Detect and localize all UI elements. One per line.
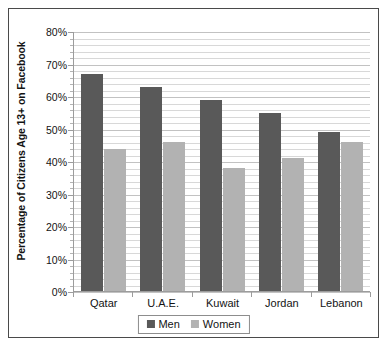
bar-women-jordan [282, 158, 304, 291]
bar-women-qatar [104, 149, 126, 291]
y-axis-tick-labels: 0%10%20%30%40%50%60%70%80% [31, 9, 69, 337]
bar-group [192, 32, 251, 291]
y-axis-tick-label: 20% [46, 221, 67, 233]
y-tick-mark-minor [70, 39, 73, 40]
y-tick-mark-major [68, 260, 73, 261]
y-tick-mark-major [68, 65, 73, 66]
y-tick-mark-major [68, 97, 73, 98]
y-tick-mark-minor [70, 214, 73, 215]
y-tick-mark-minor [70, 240, 73, 241]
bar-women-lebanon [341, 142, 363, 291]
gridline-major [74, 292, 370, 293]
bar-men-uae [140, 87, 162, 291]
y-tick-mark-minor [70, 286, 73, 287]
legend-item-women[interactable]: Women [191, 318, 241, 330]
y-axis-tick-label: 50% [46, 124, 67, 136]
y-tick-mark-minor [70, 175, 73, 176]
y-tick-mark-major [68, 227, 73, 228]
plot-inner [73, 32, 370, 292]
y-tick-mark-minor [70, 201, 73, 202]
bar-group [133, 32, 192, 291]
y-tick-mark-minor [70, 253, 73, 254]
y-axis-tick-label: 80% [46, 26, 67, 38]
x-axis-label-uae: U.A.E. [133, 297, 192, 309]
bar-women-uae [163, 142, 185, 291]
y-tick-mark-minor [70, 188, 73, 189]
bar-men-jordan [259, 113, 281, 291]
y-tick-mark-minor [70, 221, 73, 222]
bar-group [74, 32, 133, 291]
y-tick-mark-minor [70, 169, 73, 170]
y-tick-mark-minor [70, 71, 73, 72]
y-axis-title: Percentage of Citizens Age 13+ on Facebo… [15, 41, 27, 260]
y-tick-mark-major [68, 195, 73, 196]
y-tick-mark-minor [70, 149, 73, 150]
legend-label: Men [158, 318, 179, 330]
bar-women-kuwait [223, 168, 245, 291]
x-axis-label-qatar: Qatar [74, 297, 133, 309]
y-tick-mark-minor [70, 117, 73, 118]
plot-area [73, 32, 370, 292]
y-axis-tick-label: 70% [46, 59, 67, 71]
y-tick-mark-minor [70, 182, 73, 183]
x-axis-label-jordan: Jordan [252, 297, 311, 309]
y-tick-mark-minor [70, 45, 73, 46]
y-tick-mark-minor [70, 279, 73, 280]
y-tick-mark-minor [70, 84, 73, 85]
y-tick-mark-major [68, 162, 73, 163]
bar-men-kuwait [200, 100, 222, 291]
x-axis-label-kuwait: Kuwait [193, 297, 252, 309]
bar-men-qatar [81, 74, 103, 291]
bar-group [311, 32, 370, 291]
y-tick-mark-minor [70, 104, 73, 105]
y-axis-tick-label: 0% [52, 286, 67, 298]
y-axis-title-container: Percentage of Citizens Age 13+ on Facebo… [11, 17, 31, 285]
y-tick-mark-minor [70, 143, 73, 144]
y-tick-mark-minor [70, 52, 73, 53]
x-axis-label-lebanon: Lebanon [312, 297, 371, 309]
y-tick-mark-minor [70, 234, 73, 235]
x-axis-category-labels: QatarU.A.E.KuwaitJordanLebanon [74, 297, 371, 309]
y-tick-mark-minor [70, 123, 73, 124]
y-tick-mark-major [68, 32, 73, 33]
y-tick-mark-minor [70, 156, 73, 157]
y-tick-mark-minor [70, 91, 73, 92]
chart-plot-region: Percentage of Citizens Age 13+ on Facebo… [9, 9, 378, 337]
x-axis-line [73, 291, 370, 292]
y-tick-mark-minor [70, 136, 73, 137]
square-swatch-icon [191, 320, 199, 328]
y-axis-tick-label: 30% [46, 189, 67, 201]
bar-groups [74, 32, 370, 291]
y-axis-tick-label: 60% [46, 91, 67, 103]
y-tick-mark-minor [70, 110, 73, 111]
y-tick-mark-minor [70, 58, 73, 59]
chart-legend: MenWomen [137, 315, 249, 334]
legend-label: Women [203, 318, 241, 330]
legend-item-men[interactable]: Men [146, 318, 179, 330]
y-tick-mark-minor [70, 78, 73, 79]
bar-men-lebanon [318, 132, 340, 291]
chart-figure: Percentage of Citizens Age 13+ on Facebo… [8, 8, 379, 338]
y-tick-mark-minor [70, 273, 73, 274]
y-tick-mark-minor [70, 266, 73, 267]
square-swatch-icon [146, 320, 154, 328]
y-tick-mark-major [68, 130, 73, 131]
y-axis-tick-label: 10% [46, 254, 67, 266]
bar-group [252, 32, 311, 291]
y-tick-mark-minor [70, 247, 73, 248]
y-tick-mark-minor [70, 208, 73, 209]
y-axis-tick-label: 40% [46, 156, 67, 168]
